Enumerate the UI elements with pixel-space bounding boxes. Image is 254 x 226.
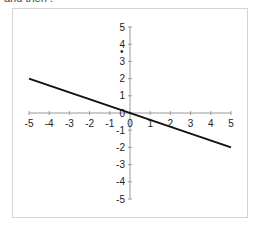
y-tick-label: -5 xyxy=(116,194,125,205)
y-tick-label: 3 xyxy=(119,56,125,67)
y-tick-label: 5 xyxy=(119,22,125,33)
x-tick-label: 5 xyxy=(228,118,234,129)
x-tick-label: 4 xyxy=(208,118,214,129)
y-tick-label: -4 xyxy=(116,176,125,187)
stray-dot: • xyxy=(120,46,124,57)
x-tick-label: -5 xyxy=(25,118,34,129)
x-tick-label: -4 xyxy=(45,118,54,129)
y-tick-label: 1 xyxy=(119,90,125,101)
y-tick-label: -2 xyxy=(116,142,125,153)
x-tick-label: 0 xyxy=(127,118,133,129)
x-tick-label: -3 xyxy=(65,118,74,129)
line-chart: -5-4-3-2-1012345-5-4-3-2-1012345• xyxy=(0,0,254,226)
x-tick-label: -1 xyxy=(105,118,114,129)
x-tick-label: -2 xyxy=(85,118,94,129)
y-tick-label: 2 xyxy=(119,73,125,84)
x-tick-label: 3 xyxy=(188,118,194,129)
y-tick-label: -3 xyxy=(116,159,125,170)
y-tick-label: -1 xyxy=(116,125,125,136)
